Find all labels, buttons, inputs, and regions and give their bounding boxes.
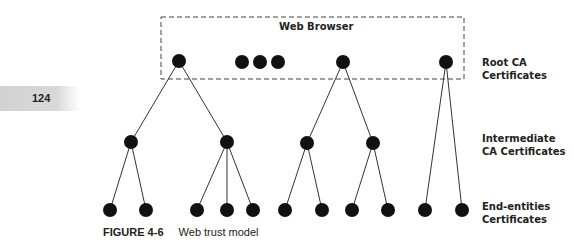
figure-caption: FIGURE 4-6 Web trust model [103, 226, 258, 238]
ellipsis-dot [253, 55, 267, 69]
trust-edge [131, 142, 146, 210]
trust-edge [307, 143, 322, 210]
end-entities-label: End-entities Certificates [482, 200, 550, 226]
figure-title: Web trust model [179, 226, 259, 238]
end-entity-node [246, 203, 260, 217]
ellipsis-dot [271, 55, 285, 69]
web-browser-label: Web Browser [279, 21, 353, 32]
trust-edge [446, 62, 462, 210]
end-entity-node [278, 203, 292, 217]
trust-edge [110, 142, 131, 210]
intermediate-ca-node [220, 135, 234, 149]
trust-edge [373, 143, 388, 210]
root-ca-node [336, 55, 350, 69]
trust-edge [131, 61, 179, 142]
intermediate-ca-label: Intermediate CA Certificates [482, 132, 565, 158]
certificate-nodes [103, 54, 469, 217]
end-entity-node [190, 203, 204, 217]
end-entity-node [103, 203, 117, 217]
trust-edges [110, 61, 462, 210]
end-entity-node [381, 203, 395, 217]
root-ca-node [439, 55, 453, 69]
root-ca-label: Root CA Certificates [482, 56, 547, 82]
intermediate-ca-node [366, 136, 380, 150]
trust-edge [197, 142, 227, 210]
ellipsis-dot [235, 55, 249, 69]
end-entity-node [418, 203, 432, 217]
end-entity-node [315, 203, 329, 217]
end-entity-node [220, 203, 234, 217]
trust-edge [307, 62, 343, 143]
trust-edge [343, 62, 373, 143]
intermediate-ca-node [300, 136, 314, 150]
trust-edge [227, 142, 253, 210]
trust-edge [285, 143, 307, 210]
end-entity-node [139, 203, 153, 217]
root-ca-node [172, 54, 186, 68]
figure-number: FIGURE 4-6 [103, 226, 164, 238]
end-entity-node [345, 203, 359, 217]
trust-edge [179, 61, 227, 142]
trust-edge [425, 62, 446, 210]
trust-edge [352, 143, 373, 210]
end-entity-node [455, 203, 469, 217]
intermediate-ca-node [124, 135, 138, 149]
